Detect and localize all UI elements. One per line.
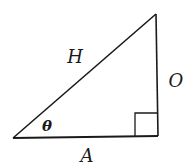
adjacent-side	[13, 136, 158, 138]
right-triangle-diagram: H O A θ	[0, 0, 192, 167]
opposite-side	[156, 14, 158, 136]
angle-theta-label: θ	[42, 117, 52, 135]
hypotenuse-label: H	[66, 46, 83, 67]
right-angle-marker	[135, 113, 158, 136]
adjacent-label: A	[79, 145, 94, 166]
opposite-label: O	[169, 70, 184, 91]
